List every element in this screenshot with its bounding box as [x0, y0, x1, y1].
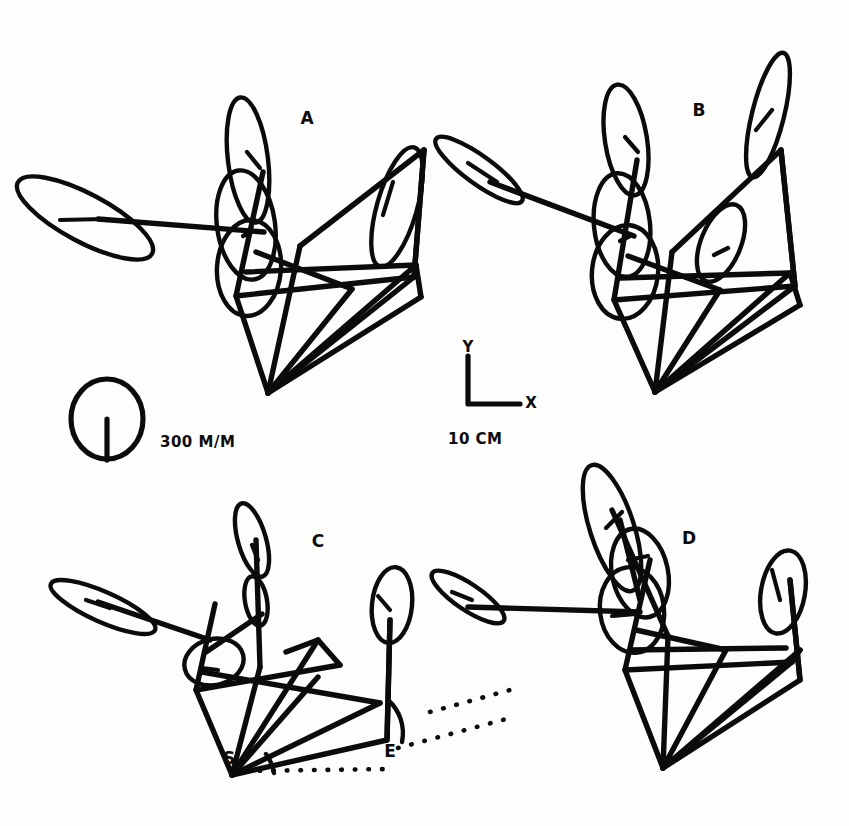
- velocity-scale-label: 300 M/M: [160, 433, 235, 451]
- panel-label-a: A: [300, 108, 314, 128]
- elbow-point-label: E: [384, 741, 396, 761]
- figure-background: [0, 0, 849, 826]
- panel-label-b: B: [693, 100, 706, 120]
- panel-label-d: D: [682, 528, 696, 548]
- panel-label-c: C: [312, 531, 324, 551]
- y-axis-label: Y: [462, 338, 475, 356]
- figure-root: A: [0, 0, 849, 826]
- x-axis-label: X: [525, 394, 537, 412]
- shoulder-point-label: S: [223, 748, 235, 768]
- length-scale-label: 10 CM: [448, 430, 503, 448]
- biomechanics-figure: A: [0, 0, 849, 826]
